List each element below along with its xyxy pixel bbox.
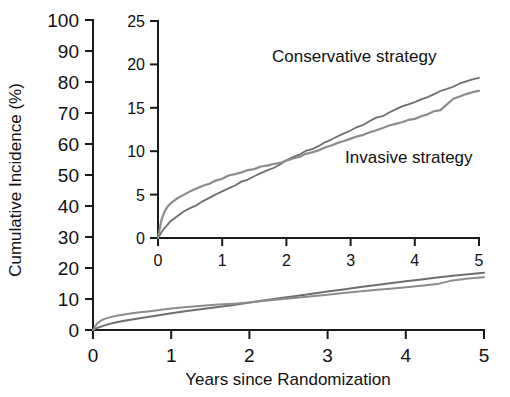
series-label-conservative: Conservative strategy bbox=[272, 47, 437, 66]
main-y-tick-label: 30 bbox=[58, 227, 79, 248]
inset-x-tick-label: 2 bbox=[282, 252, 291, 269]
main-y-tick-label: 60 bbox=[58, 134, 79, 155]
main-x-tick-label: 5 bbox=[479, 345, 490, 366]
main-x-tick-label: 2 bbox=[244, 345, 255, 366]
inset-y-tick-label: 10 bbox=[127, 143, 145, 160]
main-y-tick-label: 80 bbox=[58, 72, 79, 93]
inset-x-tick-label: 1 bbox=[218, 252, 227, 269]
chart-canvas: Cumulative Incidence (%) Years since Ran… bbox=[0, 0, 510, 397]
inset-x-tick-label: 0 bbox=[154, 252, 163, 269]
y-axis-title: Cumulative Incidence (%) bbox=[6, 83, 25, 277]
main-y-tick-label: 50 bbox=[58, 165, 79, 186]
main-y-tick-label: 0 bbox=[68, 320, 79, 341]
series-label-invasive: Invasive strategy bbox=[345, 148, 473, 167]
inset-y-tick-label: 20 bbox=[127, 56, 145, 73]
main-x-tick-label: 0 bbox=[88, 345, 99, 366]
main-y-tick-label: 40 bbox=[58, 196, 79, 217]
inset-x-tick-label: 3 bbox=[346, 252, 355, 269]
main-x-tick-label: 3 bbox=[322, 345, 333, 366]
inset-y-tick-label: 5 bbox=[136, 187, 145, 204]
main-y-tick-label: 90 bbox=[58, 41, 79, 62]
x-axis-title: Years since Randomization bbox=[185, 370, 390, 389]
inset-x-tick-label: 4 bbox=[410, 252, 419, 269]
inset-y-tick-label: 15 bbox=[127, 100, 145, 117]
inset-y-tick-label: 25 bbox=[127, 13, 145, 30]
main-y-tick-label: 20 bbox=[58, 258, 79, 279]
main-x-tick-label: 1 bbox=[166, 345, 177, 366]
main-y-tick-label: 70 bbox=[58, 103, 79, 124]
main-y-tick-label: 100 bbox=[47, 10, 79, 31]
main-x-tick-label: 4 bbox=[401, 345, 412, 366]
main-y-tick-label: 10 bbox=[58, 289, 79, 310]
inset-x-tick-label: 5 bbox=[475, 252, 484, 269]
inset-y-tick-label: 0 bbox=[136, 230, 145, 247]
cumulative-incidence-figure: Cumulative Incidence (%) Years since Ran… bbox=[0, 0, 510, 397]
